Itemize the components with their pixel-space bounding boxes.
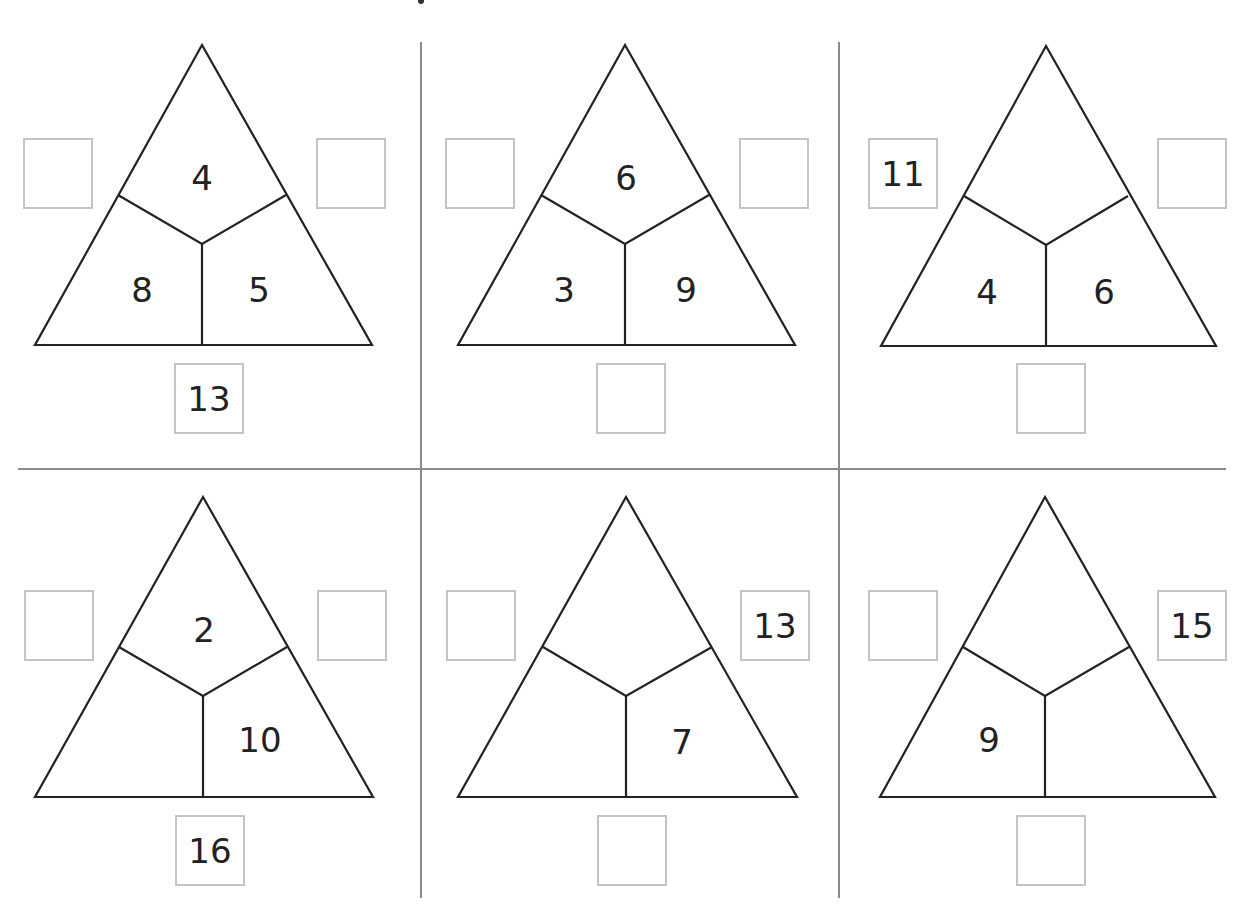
triangle-puzzle-3: 4 6 11 bbox=[840, 0, 1257, 450]
answer-box-bottom[interactable]: 16 bbox=[175, 815, 245, 886]
triangle-puzzle-5: 7 13 bbox=[422, 452, 842, 902]
triangle-bottom-right-value: 5 bbox=[248, 270, 270, 310]
answer-box-bottom[interactable] bbox=[1016, 363, 1086, 434]
answer-box-right[interactable]: 15 bbox=[1157, 590, 1227, 661]
triangle-bottom-right-value: 9 bbox=[675, 270, 697, 310]
answer-box-left[interactable] bbox=[868, 590, 938, 661]
triangle-bottom-right-value: 6 bbox=[1093, 272, 1115, 312]
answer-box-left[interactable] bbox=[23, 138, 93, 209]
answer-box-left[interactable]: 11 bbox=[868, 138, 938, 209]
answer-box-left[interactable] bbox=[24, 590, 94, 661]
answer-box-bottom[interactable] bbox=[597, 815, 667, 886]
answer-box-right[interactable] bbox=[739, 138, 809, 209]
triangle-puzzle-1: 4 8 5 13 bbox=[0, 0, 420, 450]
answer-box-right[interactable] bbox=[1157, 138, 1227, 209]
answer-box-left[interactable] bbox=[446, 590, 516, 661]
triangle-puzzle-6: 9 15 bbox=[840, 452, 1257, 902]
answer-box-bottom[interactable]: 13 bbox=[174, 363, 244, 434]
triangle-bottom-left-value: 4 bbox=[976, 272, 998, 312]
triangle-puzzle-2: 6 3 9 bbox=[422, 0, 842, 450]
triangle-top-value: 4 bbox=[191, 158, 213, 198]
answer-box-right[interactable] bbox=[317, 590, 387, 661]
answer-box-right[interactable] bbox=[316, 138, 386, 209]
answer-box-bottom[interactable] bbox=[596, 363, 666, 434]
triangle-bottom-left-value: 9 bbox=[978, 720, 1000, 760]
answer-box-left[interactable] bbox=[445, 138, 515, 209]
triangle-bottom-right-value: 7 bbox=[671, 722, 693, 762]
triangle-top-value: 2 bbox=[193, 610, 215, 650]
answer-box-right[interactable]: 13 bbox=[740, 590, 810, 661]
triangle-bottom-right-value: 10 bbox=[238, 720, 281, 760]
triangle-bottom-left-value: 3 bbox=[553, 270, 575, 310]
triangle-top-value: 6 bbox=[615, 158, 637, 198]
answer-box-bottom[interactable] bbox=[1016, 815, 1086, 886]
triangle-puzzle-4: 2 10 16 bbox=[0, 452, 420, 902]
worksheet-page: 4 8 5 13 6 3 9 4 6 11 bbox=[0, 0, 1257, 913]
triangle-bottom-left-value: 8 bbox=[131, 270, 153, 310]
